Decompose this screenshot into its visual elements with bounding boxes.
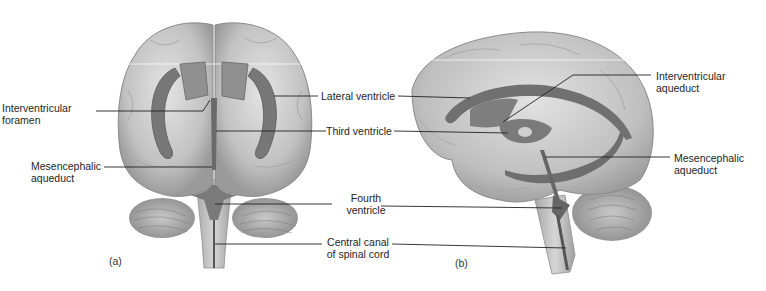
label-interventricular-aqueduct: Interventricular aqueduct (656, 70, 725, 94)
panel-a-brain (118, 23, 312, 268)
third-ventricle-a (211, 98, 217, 170)
label-line: aqueduct (656, 82, 725, 94)
label-line: Interventricular (656, 70, 725, 82)
label-line: foramen (2, 114, 71, 126)
label-line: Third ventricle (326, 125, 392, 137)
label-line: ventricle (326, 204, 406, 216)
label-line: Central canal (318, 236, 398, 248)
cerebellum-left (129, 198, 195, 238)
panel-letter-a: (a) (109, 255, 122, 267)
central-canal-a (213, 220, 215, 268)
panel-letter-b: (b) (455, 257, 468, 269)
label-line: of spinal cord (318, 248, 398, 260)
panel-b-brain (412, 32, 653, 274)
label-mesencephalic-aqueduct-a: Mesencephalic aqueduct (31, 160, 101, 184)
label-line: Lateral ventricle (321, 90, 395, 102)
label-interventricular-foramen: Interventricular foramen (2, 102, 71, 126)
label-line: aqueduct (31, 172, 101, 184)
label-central-canal: Central canal of spinal cord (318, 236, 398, 260)
label-line: Fourth (326, 192, 406, 204)
label-third-ventricle: Third ventricle (326, 125, 392, 137)
label-lateral-ventricle: Lateral ventricle (321, 90, 395, 102)
label-fourth-ventricle: Fourth ventricle (326, 192, 406, 216)
label-line: aqueduct (674, 164, 744, 176)
label-mesencephalic-aqueduct-b: Mesencephalic aqueduct (674, 152, 744, 176)
label-line: Mesencephalic (31, 160, 101, 172)
label-line: Interventricular (2, 102, 71, 114)
label-line: Mesencephalic (674, 152, 744, 164)
